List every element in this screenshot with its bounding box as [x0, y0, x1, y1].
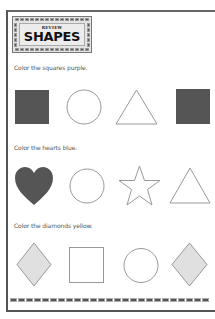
triangle-icon — [115, 89, 158, 125]
triangle-icon — [169, 167, 211, 204]
diamond-icon-shaded — [171, 242, 208, 287]
bottom-film-strip — [10, 298, 209, 302]
banner-inner: REVIEW SHAPES — [19, 23, 85, 46]
square-icon-filled — [15, 90, 49, 124]
instruction-diamonds: Color the diamonds yellow. — [14, 222, 93, 229]
heart-icon-filled — [15, 167, 53, 206]
banner-film-left — [14, 23, 17, 47]
square-icon — [69, 247, 104, 283]
circle-icon — [66, 89, 102, 125]
square-icon-filled — [176, 89, 210, 124]
banner-film-bottom — [15, 48, 89, 51]
page-title: SHAPES — [24, 30, 80, 44]
banner-film-top — [15, 18, 89, 21]
star-icon — [118, 165, 161, 206]
diamond-icon-shaded — [16, 242, 52, 287]
banner-film-right — [87, 23, 90, 47]
instruction-hearts: Color the hearts blue. — [14, 144, 77, 151]
instruction-squares: Color the squares purple. — [14, 64, 87, 71]
title-banner: REVIEW SHAPES — [12, 16, 92, 53]
circle-icon — [123, 247, 159, 284]
circle-icon — [69, 168, 105, 204]
